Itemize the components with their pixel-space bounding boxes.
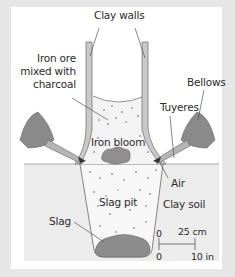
scale-bottom-label: 10 in [191,250,214,263]
label-iron-ore-line3: charcoal [18,78,76,91]
scale-bottom-zero: 0 [156,250,162,263]
scale-top-zero: 0 [156,227,162,240]
label-clay-walls: Clay walls [94,9,145,22]
label-bellows: Bellows [187,76,226,89]
label-slag-pit: Slag pit [99,196,137,209]
label-iron-bloom: Iron bloom [91,136,145,149]
label-iron-ore-line2: mixed with [18,65,76,78]
label-air: Air [171,177,185,190]
label-tuyeres: Tuyeres [160,101,199,114]
label-clay-soil: Clay soil [163,198,205,211]
scale-top-label: 25 cm [178,225,207,238]
tuyere-left [45,140,84,164]
label-slag: Slag [49,215,71,228]
label-iron-ore-line1: Iron ore [28,52,76,65]
